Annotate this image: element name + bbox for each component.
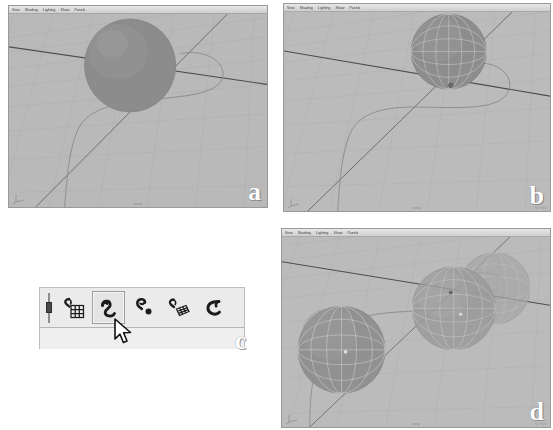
menu-item-panels[interactable]: Panels: [347, 231, 358, 235]
snap-to-curve-button[interactable]: [92, 291, 125, 324]
toolbar-empty-shelf-row: [40, 328, 244, 349]
menu-item-lighting[interactable]: Lighting: [43, 8, 56, 12]
menu-item-lighting[interactable]: Lighting: [316, 231, 329, 235]
snap-to-point-icon: [132, 296, 156, 320]
snap-to-grid-icon: [62, 296, 86, 320]
viewport-caption-d: persp: [412, 422, 420, 426]
menu-item-panels[interactable]: Panels: [74, 8, 85, 12]
menu-item-view[interactable]: View: [12, 8, 20, 12]
viewport-canvas-b[interactable]: [284, 12, 550, 211]
snap-to-view-plane-icon: [167, 296, 191, 320]
viewport-canvas-a[interactable]: [9, 14, 267, 207]
snap-toolbar-panel-c[interactable]: c: [39, 287, 245, 349]
viewport-canvas-d[interactable]: [282, 237, 550, 427]
menu-item-view[interactable]: View: [287, 6, 295, 10]
axis-indicator-b: [287, 196, 309, 208]
viewport-panel-d[interactable]: View Shading Lighting Show Panels: [281, 228, 551, 428]
menu-item-show[interactable]: Show: [334, 231, 343, 235]
menu-item-panels[interactable]: Panels: [349, 6, 360, 10]
snap-to-grid-button[interactable]: [57, 291, 90, 324]
menu-item-lighting[interactable]: Lighting: [318, 6, 331, 10]
menu-item-view[interactable]: View: [285, 231, 293, 235]
menu-item-show[interactable]: Show: [336, 6, 345, 10]
snap-to-curve-end-button[interactable]: [197, 291, 230, 324]
snap-to-curve-icon: [97, 296, 121, 320]
viewport-panel-b[interactable]: View Shading Lighting Show Panels: [283, 3, 551, 212]
menu-item-shading[interactable]: Shading: [300, 6, 313, 10]
menu-item-shading[interactable]: Shading: [298, 231, 311, 235]
panel-label-a: a: [245, 180, 264, 204]
viewport-menubar-a[interactable]: View Shading Lighting Show Panels: [9, 6, 267, 14]
axis-indicator-a: [12, 192, 34, 204]
snap-to-view-plane-button[interactable]: [162, 291, 195, 324]
snap-to-curve-end-icon: [202, 296, 226, 320]
panel-label-c: c: [235, 330, 246, 352]
panel-label-d: d: [527, 400, 547, 424]
menu-item-shading[interactable]: Shading: [25, 8, 38, 12]
menu-item-show[interactable]: Show: [61, 8, 70, 12]
snap-to-point-button[interactable]: [127, 291, 160, 324]
viewport-caption-a: persp: [134, 202, 142, 206]
toolbar-drag-handle[interactable]: [44, 292, 53, 324]
snap-toolbar[interactable]: [40, 288, 244, 328]
axis-indicator-d: [285, 412, 307, 424]
viewport-panel-a[interactable]: View Shading Lighting Show Panels: [8, 5, 268, 208]
panel-label-b: b: [527, 184, 547, 208]
viewport-menubar-d[interactable]: View Shading Lighting Show Panels: [282, 229, 550, 237]
viewport-caption-b: persp: [413, 206, 421, 210]
viewport-menubar-b[interactable]: View Shading Lighting Show Panels: [284, 4, 550, 12]
